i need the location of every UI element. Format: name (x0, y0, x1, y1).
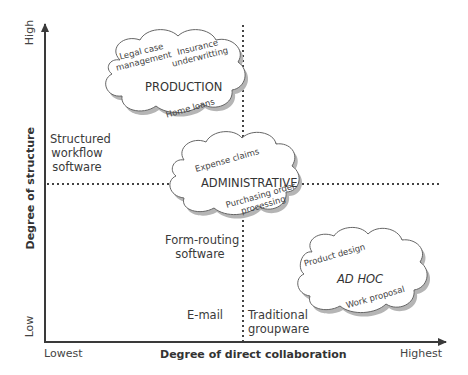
y-axis-title: Degree of structure (24, 130, 37, 250)
label-line: Structured (50, 132, 104, 146)
label-line: Traditional (248, 308, 309, 322)
x-axis-low-label: Lowest (44, 347, 82, 360)
label-line: software (165, 247, 235, 261)
x-axis-title: Degree of direct collaboration (160, 348, 335, 361)
label-line: software (50, 160, 104, 174)
y-axis-low-label: Low (23, 312, 36, 342)
traditional-groupware-label: Traditional groupware (248, 308, 309, 336)
production-title: PRODUCTION (145, 80, 222, 94)
structured-workflow-label: Structured workflow software (50, 132, 104, 174)
y-axis-high-label: High (23, 18, 36, 48)
label-line: Form-routing (165, 233, 235, 247)
label-line: workflow (50, 146, 104, 160)
x-axis-high-label: Highest (400, 347, 442, 360)
form-routing-label: Form-routing software (165, 233, 235, 261)
adhoc-title: AD HOC (337, 272, 383, 286)
email-label: E-mail (185, 308, 225, 322)
label-line: groupware (248, 322, 309, 336)
production-cloud (106, 30, 248, 117)
